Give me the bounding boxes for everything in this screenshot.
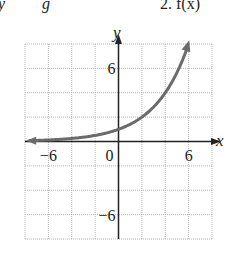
y-tick-label: −6 [98, 207, 115, 224]
curve-right-arrow-icon [182, 40, 191, 52]
header-fragment-mid: g [42, 0, 50, 13]
header-fragment-right: 2. f(x) [160, 0, 200, 13]
x-tick-label: 6 [185, 147, 193, 164]
axes [25, 34, 221, 239]
x-tick-label: −6 [40, 147, 57, 164]
x-axis-label: x [215, 131, 224, 150]
header-fragment-left: y [0, 0, 6, 13]
exponential-graph: y g 2. f(x) y x −6066−6 [0, 0, 243, 255]
curve-left-arrow-icon [26, 137, 36, 145]
x-tick-label: 0 [106, 147, 114, 164]
y-tick-label: 6 [108, 60, 116, 77]
y-axis-label: y [111, 23, 121, 42]
